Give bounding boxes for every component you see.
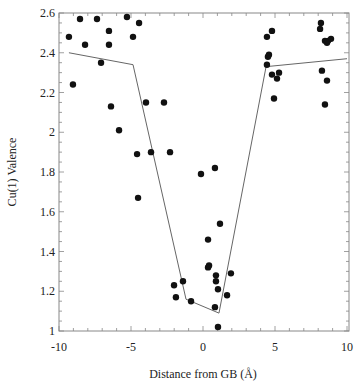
data-point <box>98 59 104 65</box>
data-point <box>212 165 218 171</box>
data-point <box>317 26 323 32</box>
y-tick-label: 2.2 <box>40 86 55 100</box>
data-point <box>269 28 275 34</box>
data-point <box>324 77 330 83</box>
y-tick-label: 1 <box>49 324 55 338</box>
x-axis-label: Distance from GB (Å) <box>149 367 257 381</box>
data-point <box>180 278 186 284</box>
data-point <box>106 28 112 34</box>
data-point <box>264 34 270 40</box>
data-point <box>148 149 154 155</box>
y-axis-label: Cu(1) Valence <box>5 138 19 207</box>
data-point <box>224 292 230 298</box>
y-tick-label: 1.8 <box>40 165 55 179</box>
data-point <box>82 42 88 48</box>
data-point <box>213 272 219 278</box>
data-point <box>171 282 177 288</box>
data-point <box>213 278 219 284</box>
y-tick-label: 1.4 <box>40 245 55 259</box>
data-point <box>94 16 100 22</box>
x-tick-label: 10 <box>341 340 353 354</box>
data-point <box>116 127 122 133</box>
data-point <box>274 75 280 81</box>
data-point <box>205 236 211 242</box>
y-tick-label: 2 <box>49 125 55 139</box>
data-point <box>124 14 130 20</box>
x-tick-label: -5 <box>126 340 136 354</box>
data-point <box>324 40 330 46</box>
data-point <box>217 220 223 226</box>
data-point <box>198 171 204 177</box>
data-points <box>66 14 334 330</box>
scatter-chart: 11.21.41.61.822.22.42.6 -10-50510 Distan… <box>0 0 360 386</box>
data-point <box>106 42 112 48</box>
data-point <box>161 99 167 105</box>
y-tick-label: 2.4 <box>40 46 55 60</box>
data-point <box>212 304 218 310</box>
x-tick-label: 5 <box>272 340 278 354</box>
y-tick-label: 1.6 <box>40 205 55 219</box>
data-point <box>228 270 234 276</box>
y-tick-label: 2.6 <box>40 6 55 20</box>
data-point <box>318 20 324 26</box>
data-point <box>271 95 277 101</box>
data-point <box>66 34 72 40</box>
guide-line <box>69 53 347 313</box>
data-point <box>136 20 142 26</box>
y-axis-tick-labels: 11.21.41.61.822.22.42.6 <box>40 6 55 338</box>
x-axis-tick-labels: -10-50510 <box>51 340 353 354</box>
data-point <box>143 99 149 105</box>
x-tick-label: -10 <box>51 340 67 354</box>
data-point <box>77 16 83 22</box>
data-point <box>319 67 325 73</box>
data-point <box>70 81 76 87</box>
data-point <box>215 324 221 330</box>
data-point <box>188 298 194 304</box>
data-point <box>130 34 136 40</box>
data-point <box>173 294 179 300</box>
data-point <box>269 71 275 77</box>
data-point <box>108 103 114 109</box>
data-point <box>167 149 173 155</box>
data-point <box>134 151 140 157</box>
data-point <box>264 61 270 67</box>
y-tick-label: 1.2 <box>40 284 55 298</box>
data-point <box>205 264 211 270</box>
data-point <box>215 286 221 292</box>
data-point <box>135 195 141 201</box>
data-point <box>322 101 328 107</box>
x-tick-label: 0 <box>200 340 206 354</box>
data-point <box>276 69 282 75</box>
data-point <box>265 54 271 60</box>
